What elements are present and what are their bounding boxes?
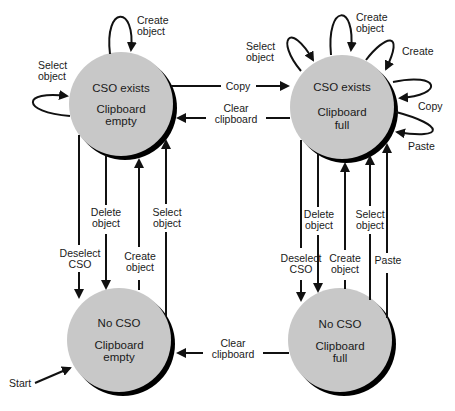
state-label: CSO exists: [92, 82, 150, 94]
edge-label: object: [331, 263, 359, 275]
arrow-select-object-loop: [287, 38, 313, 71]
edge-label: object: [356, 219, 384, 231]
state-label: full: [333, 352, 348, 364]
edge-label: object: [356, 22, 384, 34]
edge-label: Copy: [226, 80, 251, 92]
state-label: full: [335, 119, 350, 131]
state-label: Clipboard: [96, 103, 145, 115]
arrow-copy-loop: [393, 79, 431, 98]
edge-label: Create: [402, 45, 434, 57]
arrow-start: [35, 368, 70, 383]
edge-label: object: [38, 70, 66, 82]
state-label: No CSO: [319, 318, 362, 330]
edge-label: clipboard: [212, 348, 255, 360]
edge-label: object: [305, 219, 333, 231]
state-no-cso-clipboard-empty: No CSO Clipboard empty: [67, 288, 175, 396]
edge-label: Paste: [375, 254, 402, 266]
state-cso-exists-clipboard-empty: CSO exists Clipboard empty: [69, 52, 177, 160]
edge-label: Copy: [418, 100, 443, 112]
state-label: empty: [103, 351, 135, 363]
start-label: Start: [9, 377, 31, 389]
state-label: Clipboard: [94, 339, 143, 351]
arrow-create-object-loop: [109, 17, 131, 54]
state-cso-exists-clipboard-full: CSO exists Clipboard full: [290, 55, 398, 163]
edge-label: object: [92, 217, 120, 229]
arrow-create-object-loop: [330, 15, 351, 55]
arrow-paste-loop: [396, 112, 433, 134]
edge-label: CSO: [69, 258, 92, 270]
edge-label: object: [246, 51, 274, 63]
edge-label: Paste: [408, 140, 435, 152]
edge-label: object: [126, 261, 154, 273]
state-label: Clipboard: [315, 340, 364, 352]
edge-label: CSO: [290, 263, 313, 275]
state-label: empty: [105, 115, 137, 127]
state-diagram: CSO exists Clipboard empty CSO exists Cl…: [0, 0, 455, 411]
state-label: CSO exists: [313, 81, 371, 93]
edge-label: clipboard: [215, 113, 258, 125]
state-label: No CSO: [98, 317, 141, 329]
state-no-cso-clipboard-full: No CSO Clipboard full: [288, 288, 396, 396]
edge-label: object: [153, 217, 181, 229]
edge-label: object: [137, 25, 165, 37]
state-label: Clipboard: [317, 106, 366, 118]
arrow-select-object-loop: [33, 95, 70, 116]
